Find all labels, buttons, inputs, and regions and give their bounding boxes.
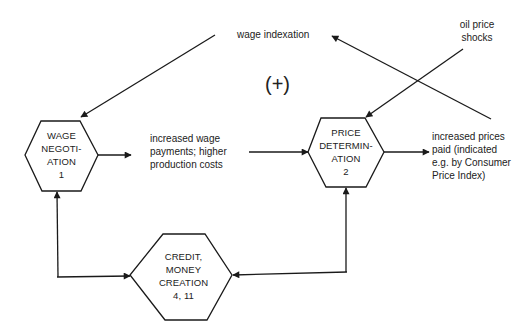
arrow-prices-to-indexation	[332, 36, 491, 119]
wage-payments-line-1: increased wage	[150, 132, 227, 145]
wage-negotiation-line-4: 1	[25, 168, 98, 181]
arrow-credit-to-wage	[57, 192, 58, 277]
wage-negotiation-node: WAGE NEGOTI- ATION 1	[25, 129, 98, 181]
arrow-indexation-to-wage	[81, 35, 215, 117]
oil-price-shocks-label: oil price shocks	[442, 18, 512, 44]
credit-line-2: MONEY	[135, 263, 232, 276]
increased-prices-line-3: e.g. by Consumer	[432, 156, 511, 169]
price-determination-line-3: ATION	[308, 152, 384, 165]
price-determination-line-4: 2	[308, 165, 384, 178]
wage-payments-line-3: production costs	[150, 158, 227, 171]
increased-prices-line-1: increased prices	[432, 130, 511, 143]
arrow-wage-to-credit	[57, 276, 130, 277]
credit-line-1: CREDIT,	[135, 250, 232, 263]
increased-prices-line-4: Price Index)	[432, 169, 511, 182]
credit-money-creation-node: CREDIT, MONEY CREATION 4, 11	[135, 250, 232, 302]
increased-prices-line-2: paid (indicated	[432, 143, 511, 156]
wage-negotiation-line-1: WAGE	[25, 129, 98, 142]
wage-negotiation-line-3: ATION	[25, 155, 98, 168]
positive-loop-sign: (+)	[265, 74, 290, 94]
oil-price-shocks-line-1: oil price	[442, 18, 512, 31]
arrow-price-to-credit	[233, 272, 347, 275]
wage-negotiation-line-2: NEGOTI-	[25, 142, 98, 155]
credit-line-4: 4, 11	[135, 289, 232, 302]
increased-prices-label: increased prices paid (indicated e.g. by…	[432, 130, 511, 182]
wage-payments-line-2: payments; higher	[150, 145, 227, 158]
arrow-oil-to-price	[366, 49, 463, 117]
oil-price-shocks-line-2: shocks	[442, 31, 512, 44]
price-determination-node: PRICE DETERMIN- ATION 2	[308, 126, 384, 178]
price-determination-line-1: PRICE	[308, 126, 384, 139]
wage-indexation-label: wage indexation	[237, 28, 309, 41]
price-determination-line-2: DETERMIN-	[308, 139, 384, 152]
increased-wage-payments-label: increased wage payments; higher producti…	[150, 132, 227, 171]
credit-line-3: CREATION	[135, 276, 232, 289]
